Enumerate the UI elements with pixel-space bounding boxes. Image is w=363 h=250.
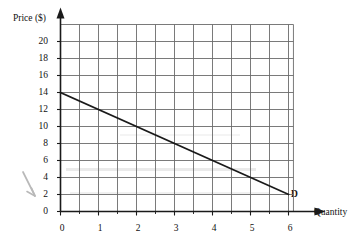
gridlines [61,25,294,212]
chart-canvas: Price ($) Quantity D 20 18 16 14 12 10 8… [0,0,363,250]
hand-drawn-arrow [23,172,35,196]
axes [57,8,326,216]
plot-area [0,0,363,250]
